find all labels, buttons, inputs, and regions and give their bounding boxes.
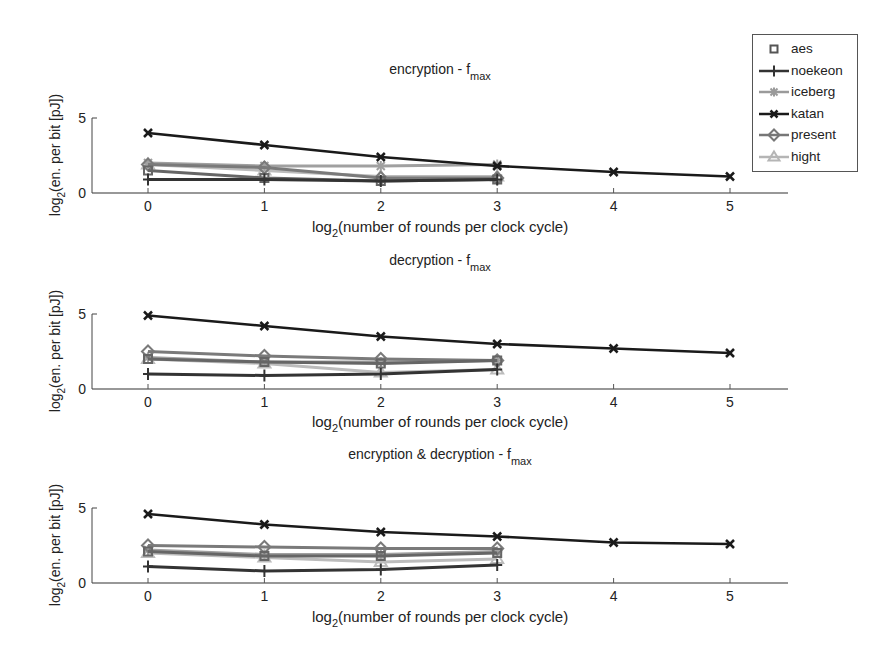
x-tick-label: 2 xyxy=(377,394,385,410)
diamond-marker-icon xyxy=(757,125,791,145)
legend-item-hight: hight xyxy=(753,147,857,167)
subplot-3: 01234505encryption & decryption - fmaxlo… xyxy=(47,446,788,629)
x-tick-label: 3 xyxy=(493,198,501,214)
subplot-title: encryption & decryption - fmax xyxy=(348,446,532,467)
triangle-marker-icon xyxy=(757,147,791,167)
x-tick-label: 5 xyxy=(726,198,734,214)
legend-item-present: present xyxy=(753,125,857,145)
x-tick-label: 2 xyxy=(377,198,385,214)
x-tick-label: 1 xyxy=(261,588,269,604)
legend-label: katan xyxy=(791,104,824,124)
x-tick-label: 4 xyxy=(610,394,618,410)
y-axis-label: log2(en. per bit [pJ]) xyxy=(47,290,67,412)
legend-label: hight xyxy=(791,147,820,167)
x-tick-label: 3 xyxy=(493,394,501,410)
series-katan xyxy=(144,510,734,548)
square-marker-icon xyxy=(757,39,791,59)
y-tick-label: 5 xyxy=(78,110,86,126)
y-tick-label: 5 xyxy=(78,306,86,322)
plus-marker-icon xyxy=(757,61,791,81)
legend-item-katan: katan xyxy=(753,104,857,124)
series-noekeon xyxy=(143,364,502,382)
x-axis-label: log2(number of rounds per clock cycle) xyxy=(312,413,568,434)
x-axis-label: log2(number of rounds per clock cycle) xyxy=(312,218,568,239)
subplot-1: 01234505encryption - fmaxlog2(number of … xyxy=(47,61,788,239)
legend: aesnoekeonicebergkatanpresenthight xyxy=(752,34,858,172)
x-axis-label: log2(number of rounds per clock cycle) xyxy=(312,608,568,629)
series-katan xyxy=(144,129,734,181)
y-tick-label: 0 xyxy=(78,381,86,397)
subplot-2: 01234505decryption - fmaxlog2(number of … xyxy=(47,252,788,434)
legend-item-iceberg: iceberg xyxy=(753,82,857,102)
x-tick-label: 1 xyxy=(261,198,269,214)
y-tick-label: 0 xyxy=(78,185,86,201)
subplot-title: decryption - fmax xyxy=(389,252,491,273)
legend-item-aes: aes xyxy=(753,39,857,59)
x-tick-label: 3 xyxy=(493,588,501,604)
x-tick-label: 4 xyxy=(610,588,618,604)
x-tick-label: 5 xyxy=(726,394,734,410)
x-tick-label: 0 xyxy=(144,198,152,214)
x-tick-label: 1 xyxy=(261,394,269,410)
legend-label: noekeon xyxy=(791,61,843,81)
x-tick-label: 4 xyxy=(610,198,618,214)
x-tick-label: 5 xyxy=(726,588,734,604)
series-katan xyxy=(144,312,734,358)
x-tick-label: 0 xyxy=(144,588,152,604)
subplot-title: encryption - fmax xyxy=(389,61,491,82)
legend-label: aes xyxy=(791,39,813,59)
y-tick-label: 5 xyxy=(78,500,86,516)
x-tick-label: 2 xyxy=(377,588,385,604)
x-tick-label: 0 xyxy=(144,394,152,410)
x-marker-icon xyxy=(757,104,791,124)
y-axis-label: log2(en. per bit [pJ]) xyxy=(47,484,67,606)
y-axis-label: log2(en. per bit [pJ]) xyxy=(47,94,67,216)
y-tick-label: 0 xyxy=(78,575,86,591)
star-marker-icon xyxy=(757,82,791,102)
legend-label: iceberg xyxy=(791,82,835,102)
legend-item-noekeon: noekeon xyxy=(753,61,857,81)
legend-label: present xyxy=(791,125,836,145)
